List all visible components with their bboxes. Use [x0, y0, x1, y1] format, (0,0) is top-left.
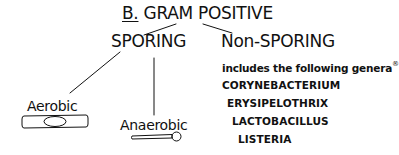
sporing-label: SPORING	[111, 31, 186, 51]
anaerobic-rod-icon	[132, 132, 182, 141]
genus-item: CORYNEBACTERIUM	[222, 79, 340, 91]
nonsporing-label: Non-SPORING	[221, 31, 335, 51]
title-text: GRAM POSITIVE	[144, 3, 273, 23]
aerobic-label: Aerobic	[27, 98, 77, 114]
note-marker: ®	[392, 60, 399, 68]
genera-note-text: includes the following genera	[222, 62, 392, 74]
title-prefix: B.	[122, 3, 138, 23]
genus-item: LACTOBACILLUS	[232, 115, 329, 127]
genus-item: ERYSIPELOTHRIX	[227, 97, 328, 109]
aerobic-rod-icon	[22, 115, 88, 128]
genus-item: LISTERIA	[238, 133, 291, 145]
diagram-title: B. GRAM POSITIVE	[122, 3, 273, 23]
genera-note: includes the following genera®	[222, 60, 399, 74]
anaerobic-label: Anaerobic	[120, 117, 187, 133]
connector-sporing-to-aerobic	[70, 52, 120, 93]
